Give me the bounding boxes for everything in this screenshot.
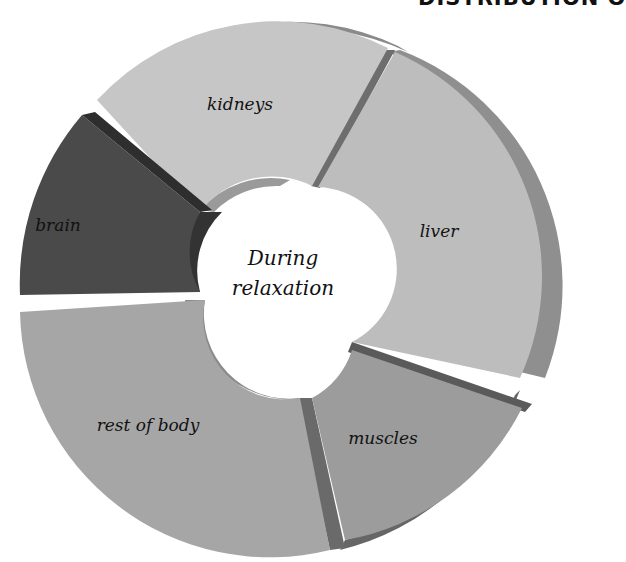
label-muscles: muscles bbox=[348, 428, 418, 448]
label-liver: liver bbox=[420, 221, 459, 241]
label-kidneys: kidneys bbox=[207, 94, 273, 114]
label-brain: brain bbox=[35, 215, 81, 235]
label-rest-of-body: rest of body bbox=[97, 415, 200, 435]
center-label-line1: During bbox=[232, 243, 334, 273]
center-label-line2: relaxation bbox=[232, 273, 334, 303]
center-label: During relaxation bbox=[232, 243, 334, 303]
